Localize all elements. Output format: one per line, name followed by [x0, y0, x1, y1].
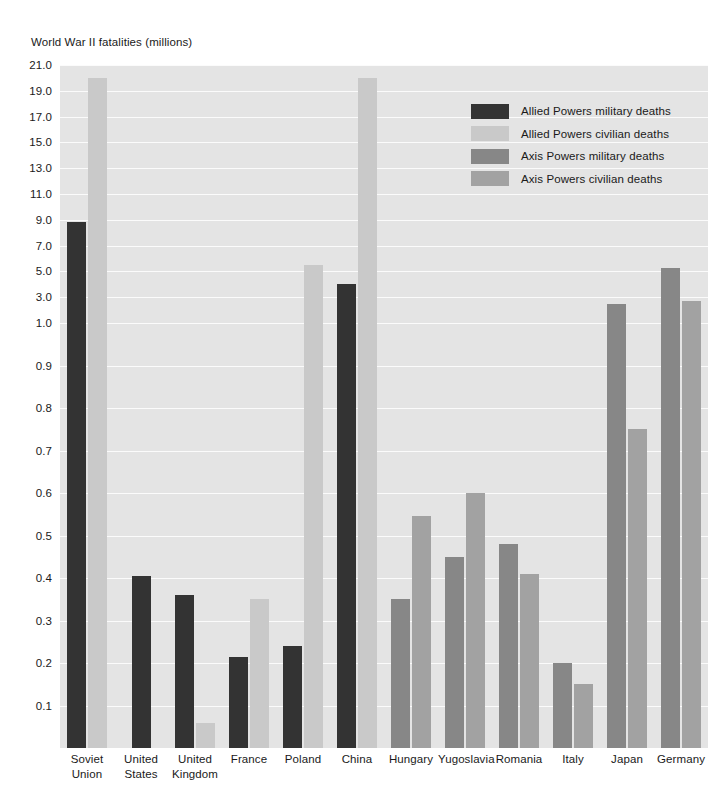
x-axis-tick-label: Poland [276, 752, 330, 767]
x-axis-tick-label: Romania [492, 752, 546, 767]
legend-item: Allied Powers military deaths [471, 100, 686, 123]
bar [132, 576, 151, 748]
x-axis: SovietUnionUnitedStatesUnitedKingdomFran… [60, 752, 708, 797]
y-axis-tick-label: 17.0 [29, 111, 52, 123]
legend-label: Axis Powers military deaths [521, 150, 664, 162]
bar-chart: World War II fatalities (millions) 21.01… [0, 0, 708, 797]
bar [412, 516, 431, 748]
gridline [60, 91, 708, 92]
y-axis-tick-label: 5.0 [36, 265, 52, 277]
bar [196, 723, 215, 749]
legend-item: Axis Powers military deaths [471, 145, 686, 168]
y-axis-tick-label: 0.1 [36, 700, 52, 712]
y-axis-tick-label: 0.3 [36, 615, 52, 627]
gridline [60, 271, 708, 272]
y-axis-tick-label: 19.0 [29, 85, 52, 97]
y-axis-tick-label: 0.7 [36, 445, 52, 457]
y-axis-tick-label: 21.0 [29, 59, 52, 71]
x-axis-tick-label: Japan [600, 752, 654, 767]
legend-item: Axis Powers civilian deaths [471, 168, 686, 191]
legend-label: Axis Powers civilian deaths [521, 173, 662, 185]
y-axis-tick-label: 1.0 [36, 317, 52, 329]
bar [358, 78, 377, 748]
chart-title: World War II fatalities (millions) [31, 36, 192, 48]
bar [283, 646, 302, 748]
legend-label: Allied Powers civilian deaths [521, 128, 669, 140]
bar [607, 304, 626, 748]
legend-item: Allied Powers civilian deaths [471, 123, 686, 146]
bar [175, 595, 194, 748]
x-axis-tick-label: Hungary [384, 752, 438, 767]
bar [391, 599, 410, 748]
y-axis-tick-label: 0.9 [36, 360, 52, 372]
y-axis-tick-label: 0.5 [36, 530, 52, 542]
y-axis-tick-label: 3.0 [36, 291, 52, 303]
gridline [60, 65, 708, 66]
y-axis-tick-label: 9.0 [36, 214, 52, 226]
bar [628, 429, 647, 748]
y-axis: 21.019.017.015.013.011.09.07.05.03.01.00… [0, 65, 56, 748]
x-axis-tick-label: Germany [654, 752, 708, 767]
gridline [60, 297, 708, 298]
y-axis-tick-label: 0.2 [36, 657, 52, 669]
bar [229, 657, 248, 748]
y-axis-tick-label: 0.4 [36, 572, 52, 584]
y-axis-tick-label: 11.0 [30, 188, 52, 200]
x-axis-tick-label: SovietUnion [60, 752, 114, 781]
legend-swatch [471, 104, 509, 119]
legend-label: Allied Powers military deaths [521, 105, 671, 117]
bar [304, 265, 323, 748]
bar [67, 222, 86, 748]
bar [682, 301, 701, 748]
legend-swatch [471, 126, 509, 141]
bar [445, 557, 464, 748]
x-axis-tick-label: UnitedStates [114, 752, 168, 781]
legend-swatch [471, 149, 509, 164]
gridline [60, 246, 708, 247]
y-axis-tick-label: 0.8 [36, 402, 52, 414]
x-axis-tick-label: UnitedKingdom [168, 752, 222, 781]
bar [337, 284, 356, 748]
y-axis-tick-label: 7.0 [36, 240, 52, 252]
y-axis-tick-label: 0.6 [36, 487, 52, 499]
x-axis-tick-label: France [222, 752, 276, 767]
y-axis-tick-label: 15.0 [29, 136, 52, 148]
gridline [60, 194, 708, 195]
bar [499, 544, 518, 748]
x-axis-tick-label: China [330, 752, 384, 767]
bar [466, 493, 485, 748]
y-axis-tick-label: 13.0 [29, 162, 52, 174]
bar [88, 78, 107, 748]
bar [553, 663, 572, 748]
bar [520, 574, 539, 748]
gridline [60, 220, 708, 221]
bar [250, 599, 269, 748]
bar [574, 684, 593, 748]
x-axis-tick-label: Yugoslavia [438, 752, 492, 767]
legend-swatch [471, 171, 509, 186]
x-axis-tick-label: Italy [546, 752, 600, 767]
bar [661, 268, 680, 748]
chart-legend: Allied Powers military deathsAllied Powe… [471, 100, 686, 190]
